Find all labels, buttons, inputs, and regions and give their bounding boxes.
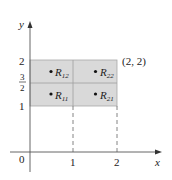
origin-label: 0: [19, 153, 25, 165]
sample-point-r21: [94, 92, 97, 95]
sample-point-r11: [49, 92, 52, 95]
y-tick-1: 1: [19, 100, 25, 112]
y-tick-three-halves-numerator: 3: [20, 72, 25, 82]
x-tick-1: 1: [70, 156, 76, 168]
sample-point-r12: [49, 70, 52, 73]
y-tick-2: 2: [19, 55, 25, 67]
y-axis-arrow-icon: [28, 21, 33, 28]
x-axis-label: x: [154, 156, 160, 168]
corner-point-label: (2, 2): [122, 55, 146, 68]
y-axis-label: y: [18, 18, 24, 30]
x-tick-2: 2: [114, 156, 120, 168]
diagram-canvas: y x 0 1 2 2 1 3 2 (2, 2) R12 R22 R11 R21: [0, 0, 172, 180]
x-axis-arrow-icon: [155, 150, 162, 155]
sample-point-r22: [94, 70, 97, 73]
y-tick-three-halves-denominator: 2: [20, 83, 25, 93]
